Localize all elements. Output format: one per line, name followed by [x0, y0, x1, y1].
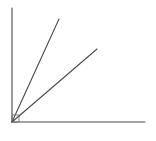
- angle-diagram: [0, 0, 156, 141]
- shallow-ray: [12, 49, 97, 122]
- steep-ray: [12, 19, 59, 122]
